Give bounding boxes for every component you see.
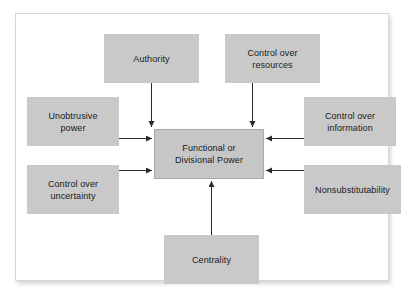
node-functional-or-divisional-power-label: Functional or Divisional Power: [175, 142, 243, 166]
node-centrality-label: Centrality: [192, 254, 231, 266]
node-nonsubstitutability: Nonsubstitutability: [304, 165, 401, 214]
node-centrality: Centrality: [164, 235, 259, 284]
node-authority: Authority: [104, 34, 199, 83]
node-unobtrusive-power: Unobtrusive power: [27, 97, 119, 146]
node-control-over-resources: Control over resources: [225, 34, 320, 83]
node-unobtrusive-power-label: Unobtrusive power: [48, 110, 97, 134]
figure-root: Authority Control over resources Unobtru…: [0, 0, 413, 303]
node-control-over-resources-label: Control over resources: [247, 47, 297, 71]
node-nonsubstitutability-label: Nonsubstitutability: [315, 184, 390, 196]
node-control-over-uncertainty-label: Control over uncertainty: [48, 178, 98, 202]
node-functional-or-divisional-power: Functional or Divisional Power: [154, 129, 264, 179]
node-authority-label: Authority: [133, 53, 169, 65]
node-control-over-information-label: Control over information: [325, 110, 375, 134]
diagram-frame: Authority Control over resources Unobtru…: [15, 13, 389, 281]
node-control-over-information: Control over information: [304, 97, 396, 146]
node-control-over-uncertainty: Control over uncertainty: [27, 165, 119, 214]
